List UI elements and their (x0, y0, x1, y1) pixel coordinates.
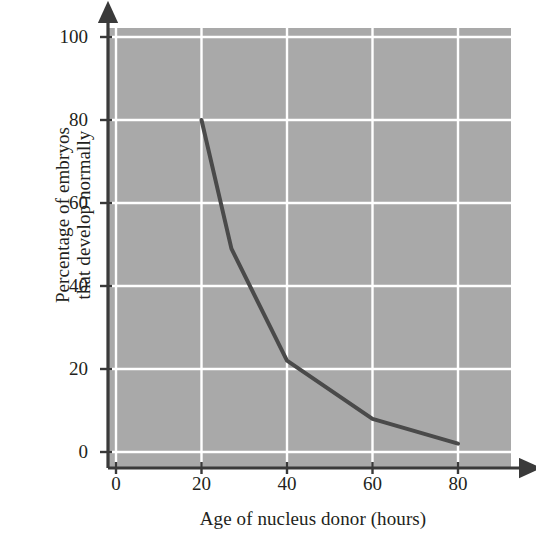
plot-area-background (108, 28, 511, 468)
plot-canvas (0, 0, 536, 545)
plot-background (108, 28, 511, 468)
chart-figure: Percentage of embryos that develop norma… (0, 0, 536, 545)
